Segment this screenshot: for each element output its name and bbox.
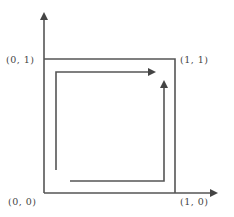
path-bottom-right-arrow bbox=[70, 82, 164, 181]
diagram-canvas bbox=[0, 0, 234, 217]
path-left-top-arrow bbox=[56, 72, 154, 170]
label-top-left: (0, 1) bbox=[6, 54, 35, 65]
label-bottom-left: (0, 0) bbox=[8, 196, 37, 207]
label-top-right: (1, 1) bbox=[180, 54, 209, 65]
unit-square-outline bbox=[44, 59, 175, 193]
label-bottom-right: (1, 0) bbox=[180, 196, 209, 207]
